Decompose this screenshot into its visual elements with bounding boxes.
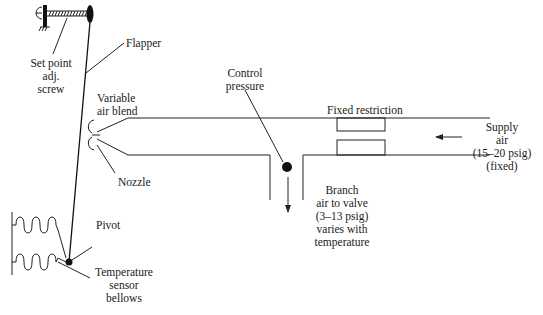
bellows-line3: bellows [94, 292, 154, 305]
bellows-line1: Temperature [94, 266, 154, 279]
fixed-restriction-label: Fixed restriction [327, 104, 403, 117]
branch-line1: Branch [310, 184, 374, 197]
branch-line5: temperature [310, 236, 374, 249]
supply-line3: (15–20 psig) [466, 147, 538, 160]
pivot-label: Pivot [96, 219, 120, 232]
nozzle-label: Nozzle [118, 176, 151, 189]
bellows-label: Temperature sensor bellows [94, 266, 154, 305]
supply-air-label: Supply air (15–20 psig) (fixed) [466, 121, 538, 173]
branch-line4: varies with [310, 223, 374, 236]
supply-line1: Supply [466, 121, 538, 134]
branch-air-label: Branch air to valve (3–13 psig) varies w… [310, 184, 374, 249]
control-pressure-line2: pressure [217, 80, 273, 93]
supply-line4: (fixed) [466, 160, 538, 173]
control-pressure-line1: Control [217, 67, 273, 80]
supply-line2: air [466, 134, 538, 147]
branch-line2: air to valve [310, 197, 374, 210]
control-pressure-label: Control pressure [217, 67, 273, 93]
branch-line3: (3–13 psig) [310, 210, 374, 223]
bellows-line2: sensor [94, 279, 154, 292]
nozzle-leader [0, 0, 543, 315]
